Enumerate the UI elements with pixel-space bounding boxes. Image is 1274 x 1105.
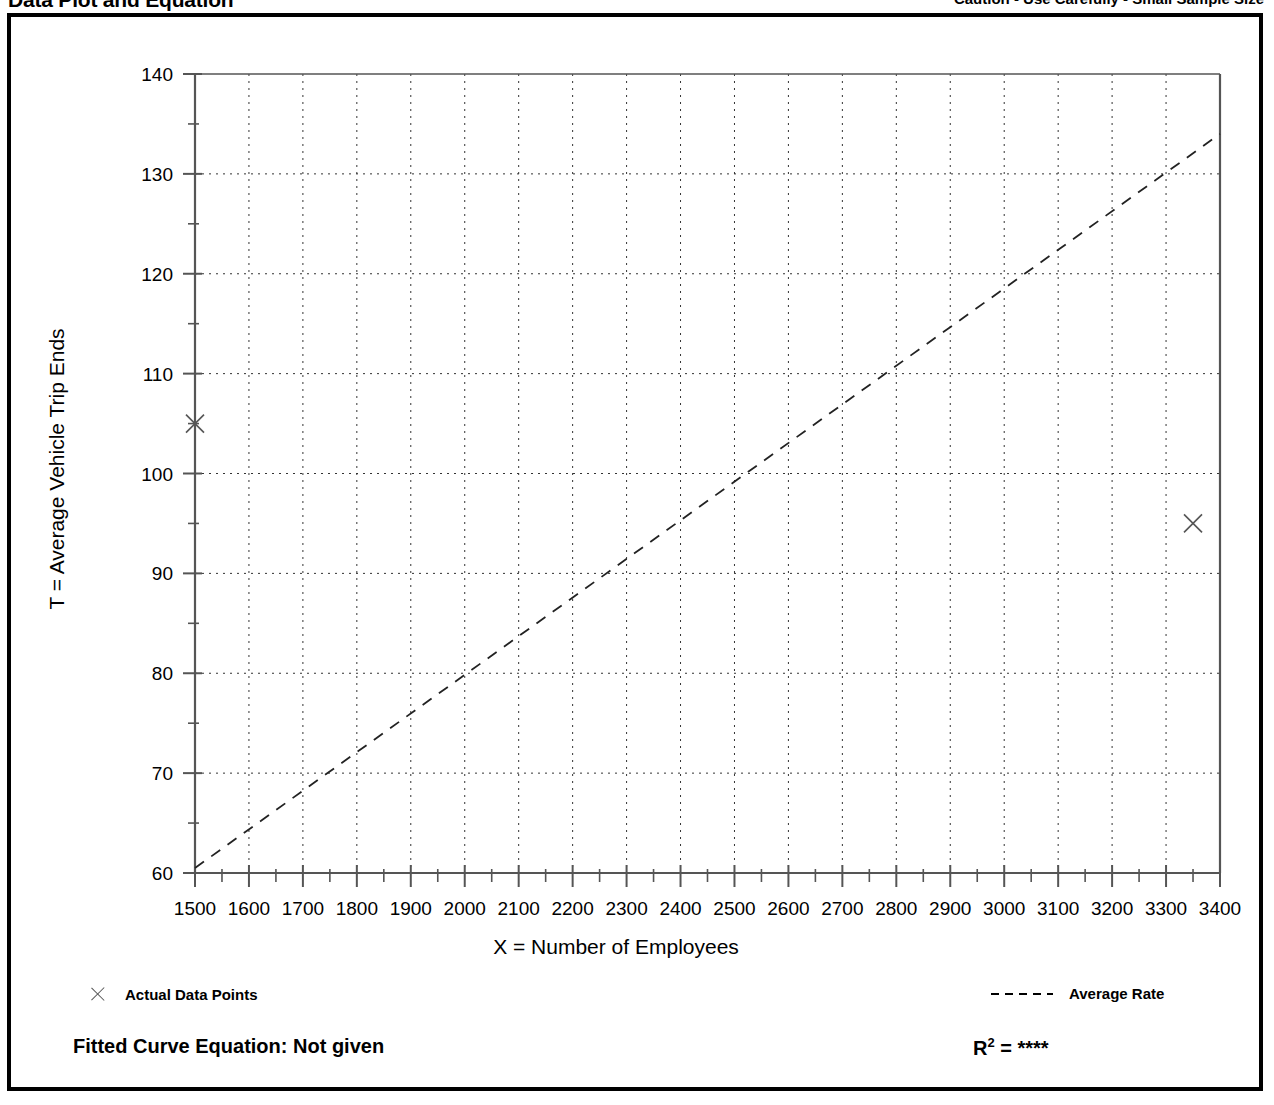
x-marker-icon	[89, 985, 107, 1003]
r-squared-stars: ****	[1017, 1037, 1048, 1059]
average-rate-line	[195, 134, 1220, 868]
page-title: Data Plot and Equation	[8, 0, 233, 12]
x-tick-label: 3200	[1091, 898, 1133, 919]
x-tick-label: 2000	[444, 898, 486, 919]
x-tick-label: 1600	[228, 898, 270, 919]
x-tick-label: 2500	[713, 898, 755, 919]
x-axis-title: X = Number of Employees	[11, 935, 1221, 959]
r-squared-exponent: 2	[987, 1035, 994, 1050]
chart-area: 6070809010011012013014015001600170018001…	[11, 17, 1259, 1087]
x-tick-label: 3400	[1199, 898, 1241, 919]
footer: Fitted Curve Equation: Not given R2 = **…	[11, 1035, 1259, 1075]
x-tick-label: 1500	[174, 898, 216, 919]
x-tick-label: 2200	[551, 898, 593, 919]
y-tick-label: 80	[152, 663, 173, 684]
x-tick-label: 1800	[336, 898, 378, 919]
r-squared-value: R2 = ****	[973, 1035, 1049, 1060]
x-tick-label: 2900	[929, 898, 971, 919]
x-tick-label: 2400	[659, 898, 701, 919]
x-tick-label: 2300	[605, 898, 647, 919]
y-tick-label: 70	[152, 763, 173, 784]
x-tick-label: 1900	[390, 898, 432, 919]
data-point-marker	[1184, 514, 1202, 532]
legend: Actual Data Points Average Rate	[11, 985, 1259, 1023]
x-tick-label: 2800	[875, 898, 917, 919]
x-tick-label: 2100	[498, 898, 540, 919]
legend-item-data-points: Actual Data Points	[89, 985, 258, 1003]
x-tick-label: 2600	[767, 898, 809, 919]
y-tick-label: 140	[141, 64, 173, 85]
y-tick-label: 130	[141, 164, 173, 185]
legend-item-average-rate: Average Rate	[991, 985, 1164, 1002]
dashed-line-icon	[991, 993, 1053, 995]
legend-label-average-rate: Average Rate	[1069, 985, 1164, 1002]
y-tick-label: 120	[141, 264, 173, 285]
x-tick-label: 1700	[282, 898, 324, 919]
y-tick-label: 110	[143, 364, 173, 385]
y-tick-label: 90	[152, 563, 173, 584]
x-tick-label: 3100	[1037, 898, 1079, 919]
y-tick-label: 60	[152, 863, 173, 884]
r-squared-letter: R	[973, 1037, 987, 1059]
legend-label-data-points: Actual Data Points	[125, 986, 258, 1003]
x-tick-label: 2700	[821, 898, 863, 919]
r-squared-equals: =	[995, 1037, 1018, 1059]
y-axis-title: T = Average Vehicle Trip Ends	[45, 159, 69, 779]
y-tick-label: 100	[141, 464, 173, 485]
fitted-curve-equation: Fitted Curve Equation: Not given	[73, 1035, 384, 1058]
chart-frame: 6070809010011012013014015001600170018001…	[7, 13, 1263, 1091]
caution-note: Caution - Use Carefully - Small Sample S…	[954, 0, 1264, 7]
x-tick-label: 3000	[983, 898, 1025, 919]
page-header: Data Plot and Equation Caution - Use Car…	[0, 0, 1274, 14]
scatter-plot-svg: 6070809010011012013014015001600170018001…	[11, 17, 1259, 927]
x-tick-label: 3300	[1145, 898, 1187, 919]
